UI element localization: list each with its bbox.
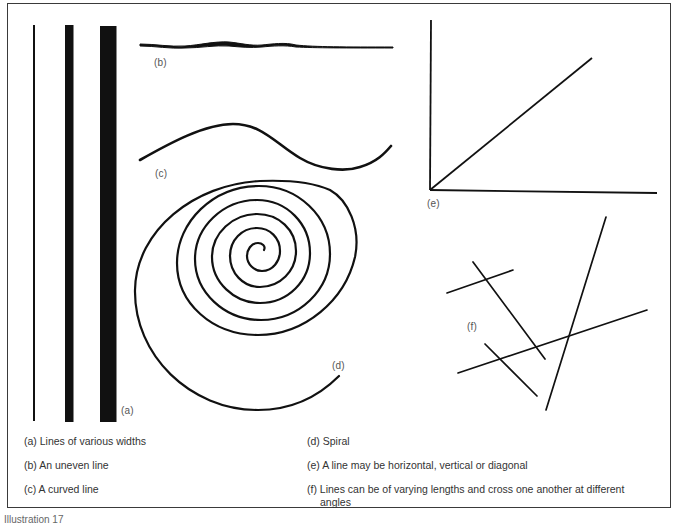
panel-c-curved-line [140,124,391,170]
caption-b: (b) An uneven line [24,459,109,471]
panel-e-axes-lines [430,20,657,193]
panel-b-uneven-line [140,42,393,48]
panel-label-f: (f) [467,321,477,332]
caption-c: (c) A curved line [24,483,99,495]
illustration-number: Illustration 17 [4,514,63,525]
vertical-line [430,20,431,190]
crossing-line-3 [485,344,537,396]
line-types-illustration [0,0,673,528]
panel-label-d: (d) [332,360,345,371]
medium-vertical-bar [65,25,74,422]
panel-label-c: (c) [155,168,167,179]
thick-vertical-bar [100,26,117,422]
panel-a-vertical-bars [33,25,117,422]
panel-label-e: (e) [427,198,440,209]
panel-label-a: (a) [121,405,134,416]
horizontal-line [430,190,657,193]
crossing-line-2 [473,262,545,359]
thin-vertical-line [33,25,35,421]
crossing-line-1 [447,270,513,293]
caption-f: (f) Lines can be of varying lengths and … [307,483,650,509]
caption-d: (d) Spiral [307,435,350,447]
crossing-line-4 [458,310,647,373]
panel-d-spiral [135,181,356,410]
caption-e: (e) A line may be horizontal, vertical o… [307,459,528,471]
diagonal-line [430,58,592,190]
panel-f-crossing-lines [447,217,647,410]
caption-a: (a) Lines of various widths [24,435,146,447]
panel-label-b: (b) [154,57,167,68]
crossing-line-5 [546,217,606,410]
